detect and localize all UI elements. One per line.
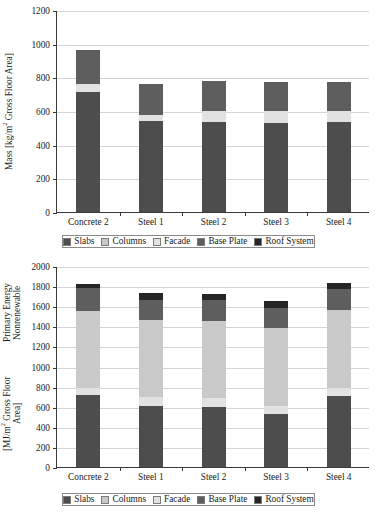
bar-steel-2[interactable]: [202, 294, 226, 467]
legend-swatch-icon: [197, 238, 205, 246]
y-axis-tick: [53, 428, 57, 429]
bar-segment-base-plate[interactable]: [264, 82, 288, 111]
mass-y-axis-label-text-tail: Gross Floor Area]: [4, 54, 14, 123]
legend-label: Base Plate: [208, 495, 247, 504]
bar-steel-3[interactable]: [264, 301, 288, 467]
bar-segment-roof-system[interactable]: [76, 284, 100, 289]
bar-segment-base-plate[interactable]: [264, 308, 288, 328]
bar-segment-facade[interactable]: [202, 111, 226, 122]
legend-swatch-icon: [153, 238, 161, 246]
bar-segment-facade[interactable]: [76, 84, 100, 92]
legend-swatch-icon: [197, 496, 205, 504]
bar-steel-1[interactable]: [139, 84, 163, 212]
y-axis-tick-label: 400: [17, 423, 50, 433]
y-axis-tick: [53, 179, 57, 180]
x-axis-tick-label: Concrete 2: [68, 217, 109, 227]
x-axis-tick-label: Steel 1: [138, 472, 164, 482]
x-axis-tick: [182, 467, 183, 471]
energy-plot-area: 0200400600800100012001400160018002000Con…: [56, 267, 369, 468]
legend-item-base-plate[interactable]: Base Plate: [197, 495, 247, 504]
legend-item-roof-system[interactable]: Roof System: [254, 495, 313, 504]
gridline: [57, 45, 369, 46]
bar-segment-base-plate[interactable]: [76, 50, 100, 84]
gridline: [57, 11, 369, 12]
bar-segment-columns[interactable]: [202, 321, 226, 398]
bar-segment-columns[interactable]: [139, 320, 163, 397]
bar-concrete-2[interactable]: [76, 284, 100, 467]
bar-segment-slabs[interactable]: [76, 92, 100, 212]
legend-item-columns[interactable]: Columns: [101, 237, 146, 246]
bar-segment-facade[interactable]: [139, 115, 163, 121]
bar-segment-facade[interactable]: [202, 398, 226, 406]
bar-segment-slabs[interactable]: [327, 396, 351, 467]
bar-segment-base-plate[interactable]: [202, 300, 226, 321]
gridline: [57, 287, 369, 288]
bar-segment-base-plate[interactable]: [202, 81, 226, 111]
bar-segment-facade[interactable]: [327, 388, 351, 396]
y-axis-tick-label: 0: [17, 208, 50, 218]
bar-segment-slabs[interactable]: [327, 122, 351, 212]
mass-y-axis-label-text: Mass [kg/m: [4, 126, 14, 170]
bar-segment-slabs[interactable]: [139, 406, 163, 467]
bar-segment-slabs[interactable]: [139, 121, 163, 212]
bar-steel-1[interactable]: [139, 293, 163, 467]
legend-item-slabs[interactable]: Slabs: [63, 495, 94, 504]
y-axis-tick-label: 800: [17, 73, 50, 83]
bar-segment-facade[interactable]: [264, 111, 288, 123]
legend-label: Columns: [112, 237, 146, 246]
legend-item-roof-system[interactable]: Roof System: [254, 237, 313, 246]
legend-label: Base Plate: [208, 237, 247, 246]
bar-segment-base-plate[interactable]: [139, 300, 163, 320]
y-axis-tick: [53, 213, 57, 214]
legend-label: Facade: [164, 237, 190, 246]
x-axis-tick: [307, 467, 308, 471]
x-axis-tick-label: Steel 3: [263, 472, 289, 482]
y-axis-tick-label: 1000: [17, 363, 50, 373]
bar-segment-base-plate[interactable]: [327, 82, 351, 111]
legend-item-base-plate[interactable]: Base Plate: [197, 237, 247, 246]
y-axis-tick-label: 1400: [17, 322, 50, 332]
bar-segment-base-plate[interactable]: [139, 84, 163, 115]
bar-segment-facade[interactable]: [327, 111, 351, 122]
bar-segment-facade[interactable]: [76, 388, 100, 396]
legend-item-columns[interactable]: Columns: [101, 495, 146, 504]
x-axis-tick: [245, 467, 246, 471]
bar-concrete-2[interactable]: [76, 50, 100, 212]
y-axis-tick: [53, 287, 57, 288]
bar-segment-columns[interactable]: [327, 310, 351, 387]
legend-item-facade[interactable]: Facade: [153, 495, 190, 504]
y-axis-tick: [53, 112, 57, 113]
bar-segment-slabs[interactable]: [76, 395, 100, 467]
x-axis-tick: [307, 212, 308, 216]
bar-segment-facade[interactable]: [139, 397, 163, 406]
bar-segment-columns[interactable]: [76, 311, 100, 387]
x-axis-tick: [182, 212, 183, 216]
bar-segment-columns[interactable]: [264, 328, 288, 406]
bar-segment-slabs[interactable]: [264, 414, 288, 467]
chart-mass: Mass [kg/m2 Gross Floor Area] 0200400600…: [0, 0, 377, 253]
y-axis-tick: [53, 408, 57, 409]
y-axis-tick-label: 600: [17, 107, 50, 117]
legend-item-facade[interactable]: Facade: [153, 237, 190, 246]
bar-segment-roof-system[interactable]: [264, 301, 288, 308]
bar-segment-slabs[interactable]: [264, 123, 288, 212]
bar-segment-roof-system[interactable]: [327, 283, 351, 289]
legend-label: Slabs: [74, 495, 94, 504]
bar-steel-3[interactable]: [264, 82, 288, 212]
bar-segment-base-plate[interactable]: [327, 289, 351, 311]
bar-segment-roof-system[interactable]: [202, 294, 226, 301]
y-axis-tick: [53, 388, 57, 389]
bar-segment-slabs[interactable]: [202, 122, 226, 212]
bar-segment-base-plate[interactable]: [76, 288, 100, 311]
legend-item-slabs[interactable]: Slabs: [63, 237, 94, 246]
bar-segment-roof-system[interactable]: [139, 293, 163, 301]
bar-segment-facade[interactable]: [264, 406, 288, 414]
chart-energy: [MJ/m2 Gross Floor Area]Primary Energy N…: [0, 253, 377, 513]
bar-steel-2[interactable]: [202, 81, 226, 212]
y-axis-tick-label: 1600: [17, 302, 50, 312]
y-axis-tick-label: 400: [17, 141, 50, 151]
y-axis-tick: [53, 267, 57, 268]
bar-steel-4[interactable]: [327, 82, 351, 212]
bar-segment-slabs[interactable]: [202, 407, 226, 468]
bar-steel-4[interactable]: [327, 283, 351, 467]
